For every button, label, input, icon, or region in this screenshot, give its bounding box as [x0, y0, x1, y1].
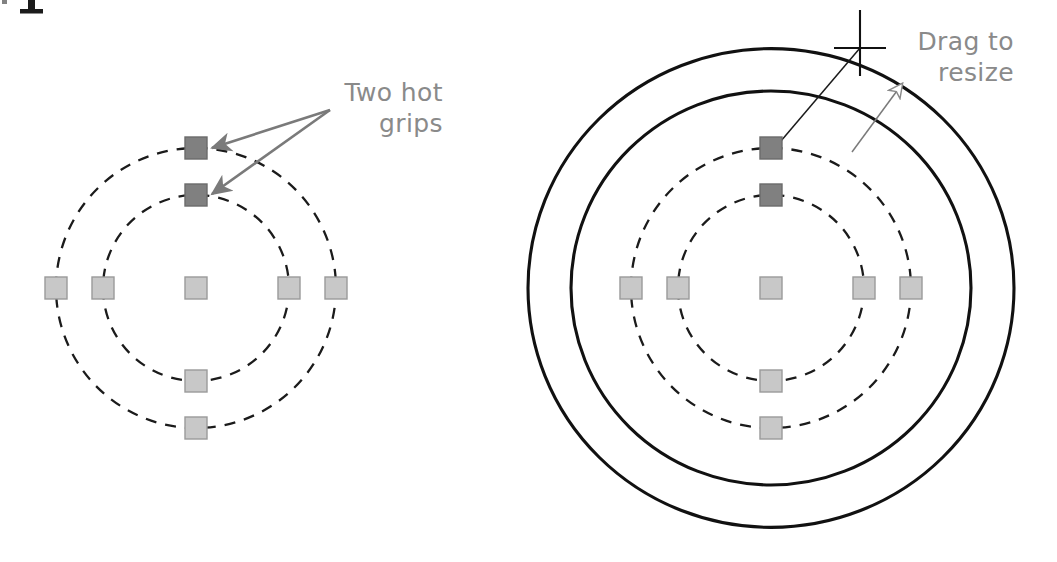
grip-inner-south-cold[interactable] [185, 370, 207, 392]
grip-inner-south-cold[interactable] [760, 370, 782, 392]
annotation-arrow-2 [212, 110, 330, 194]
clipped-glyph-serif [20, 9, 43, 14]
annotation-label-before: Two hotgrips [343, 78, 443, 138]
grip-outer-south-cold[interactable] [185, 417, 207, 439]
clipped-glyph-speck [2, 0, 7, 4]
grip-outer-east-cold[interactable] [900, 277, 922, 299]
grip-outer-east-cold[interactable] [325, 277, 347, 299]
clipped-text-fragment [2, 0, 43, 14]
annotation-label-after: Drag toresize [917, 27, 1014, 87]
grip-inner-west-cold[interactable] [667, 277, 689, 299]
resize-leader-line [775, 48, 860, 148]
annotation-line-1: Two hot [343, 78, 443, 107]
grip-inner-west-cold[interactable] [92, 277, 114, 299]
grip-inner-east-cold[interactable] [278, 277, 300, 299]
grip-center[interactable] [760, 277, 782, 299]
grip-center[interactable] [185, 277, 207, 299]
grip-outer-north-hot[interactable] [760, 137, 782, 159]
annotation-arrow-1 [212, 110, 330, 148]
grip-inner-north-hot[interactable] [760, 184, 782, 206]
panel-before: Two hotgrips [45, 78, 443, 439]
illustration-canvas: Two hotgripsDrag toresize [0, 0, 1057, 562]
panel-after: Drag toresize [528, 10, 1014, 527]
grip-inner-north-hot[interactable] [185, 184, 207, 206]
crosshair-cursor-icon[interactable] [834, 10, 886, 76]
figure-root: Two hotgripsDrag toresize [0, 0, 1057, 562]
grip-outer-west-cold[interactable] [620, 277, 642, 299]
annotation-arrow-1 [852, 84, 902, 152]
grip-outer-west-cold[interactable] [45, 277, 67, 299]
annotation-line-2: grips [379, 109, 443, 138]
grip-outer-north-hot[interactable] [185, 137, 207, 159]
grip-inner-east-cold[interactable] [853, 277, 875, 299]
grip-outer-south-cold[interactable] [760, 417, 782, 439]
annotation-line-1: Drag to [917, 27, 1014, 56]
annotation-line-2: resize [938, 58, 1014, 87]
